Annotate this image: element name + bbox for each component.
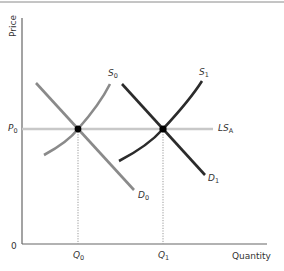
curve-label-s1: S1 (199, 68, 209, 79)
d1-main: D (208, 173, 215, 183)
equilibrium-point-0 (75, 126, 82, 133)
price-p0-label: P0 (8, 124, 18, 135)
y-axis-label: Price (9, 15, 18, 37)
curve-label-s0: S0 (108, 69, 118, 80)
curve-label-d1: D1 (208, 174, 219, 185)
d0-sub: 0 (145, 194, 149, 202)
d0-main: D (138, 190, 145, 200)
lsa-main: LS (218, 123, 229, 133)
q0-sub: 0 (80, 254, 84, 262)
supply-curve-s0 (44, 84, 110, 155)
equilibrium-point-1 (159, 125, 166, 132)
long-run-supply-label: LSA (218, 124, 233, 135)
p0-sub: 0 (13, 127, 17, 135)
lsa-sub: A (229, 127, 233, 135)
demand-curve-d0 (36, 83, 134, 190)
origin-label: 0 (11, 242, 17, 251)
quantity-q0-label: Q0 (73, 251, 84, 262)
x-axis-label: Quantity (232, 252, 271, 261)
d1-sub: 1 (215, 177, 219, 185)
curve-label-d0: D0 (138, 191, 149, 202)
s0-sub: 0 (114, 72, 118, 80)
s1-sub: 1 (205, 71, 209, 79)
supply-demand-diagram (0, 0, 284, 271)
quantity-q1-label: Q1 (158, 251, 169, 262)
q1-sub: 1 (165, 254, 169, 262)
